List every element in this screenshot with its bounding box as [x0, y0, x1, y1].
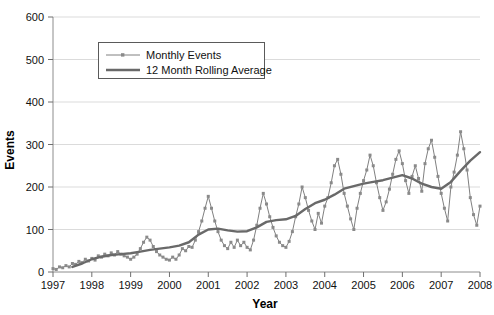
x-tick-label-2002: 2002: [235, 279, 259, 291]
y-tick-label-100: 100: [26, 224, 44, 236]
monthly-events-point: [84, 258, 87, 261]
monthly-events-point: [433, 156, 436, 159]
monthly-events-point: [394, 158, 397, 161]
monthly-events-point: [64, 264, 67, 267]
monthly-events-point: [197, 230, 200, 233]
monthly-events-point: [388, 188, 391, 191]
monthly-events-point: [174, 258, 177, 261]
monthly-events-point: [161, 256, 164, 259]
monthly-events-point: [469, 196, 472, 199]
monthly-events-point: [479, 205, 482, 208]
x-axis: 1997199819992000200120022003200420052006…: [41, 272, 492, 291]
monthly-events-point: [152, 245, 155, 248]
monthly-events-point: [126, 256, 129, 259]
monthly-events-point: [142, 241, 145, 244]
monthly-events-point: [378, 196, 381, 199]
monthly-events-point: [200, 220, 203, 223]
monthly-events-point: [414, 164, 417, 167]
x-tick-label-2007: 2007: [429, 279, 453, 291]
monthly-events-point: [304, 196, 307, 199]
legend-label-monthly-events: Monthly Events: [146, 49, 222, 61]
monthly-events-point: [187, 245, 190, 248]
monthly-events-point: [145, 236, 148, 239]
y-axis: 0100200300400500600: [26, 11, 53, 278]
monthly-events-point: [288, 240, 291, 243]
series-monthly-events: [52, 130, 482, 271]
monthly-events-point: [317, 212, 320, 215]
chart-legend: Monthly Events 12 Month Rolling Average: [99, 43, 272, 79]
y-tick-label-200: 200: [26, 181, 44, 193]
monthly-events-point: [333, 164, 336, 167]
monthly-events-point: [336, 158, 339, 161]
monthly-events-point: [362, 179, 365, 182]
monthly-events-point: [301, 186, 304, 189]
monthly-events-point: [220, 239, 223, 242]
monthly-events-point: [168, 259, 171, 262]
x-tick-label-2005: 2005: [351, 279, 375, 291]
y-tick-label-500: 500: [26, 54, 44, 66]
monthly-events-point: [436, 175, 439, 178]
series-rolling-average: [72, 152, 480, 267]
monthly-events-point: [229, 241, 232, 244]
monthly-events-point: [271, 226, 274, 229]
monthly-events-line: [53, 132, 480, 270]
y-axis-title: Events: [3, 130, 17, 170]
monthly-events-point: [216, 230, 219, 233]
monthly-events-point: [385, 200, 388, 203]
monthly-events-point: [191, 246, 194, 249]
monthly-events-point: [459, 130, 462, 133]
monthly-events-point: [246, 246, 249, 249]
monthly-events-point: [262, 192, 265, 195]
monthly-events-point: [223, 244, 226, 247]
monthly-events-point: [213, 220, 216, 223]
x-axis-title-text: Year: [252, 297, 278, 311]
monthly-events-point: [165, 258, 168, 261]
x-tick-label-2004: 2004: [312, 279, 336, 291]
monthly-events-point: [149, 239, 152, 242]
monthly-events-point: [330, 181, 333, 184]
monthly-events-point: [323, 205, 326, 208]
monthly-events-point: [178, 254, 181, 257]
monthly-events-point: [181, 247, 184, 250]
x-tick-label-2003: 2003: [274, 279, 298, 291]
monthly-events-point: [453, 171, 456, 174]
monthly-events-point: [349, 217, 352, 220]
y-axis-title-text: Events: [3, 130, 17, 170]
monthly-events-point: [278, 241, 281, 244]
monthly-events-point: [275, 234, 278, 237]
monthly-events-point: [259, 207, 262, 210]
monthly-events-point: [291, 230, 294, 233]
x-tick-label-2000: 2000: [157, 279, 181, 291]
monthly-events-point: [314, 228, 317, 231]
y-tick-label-0: 0: [38, 266, 44, 278]
monthly-events-point: [68, 265, 71, 268]
monthly-events-point: [446, 220, 449, 223]
monthly-events-point: [449, 186, 452, 189]
x-axis-title: Year: [252, 297, 278, 311]
monthly-events-point: [77, 260, 80, 263]
monthly-events-point: [352, 228, 355, 231]
monthly-events-point: [281, 244, 284, 247]
x-tick-label-2006: 2006: [390, 279, 414, 291]
monthly-events-point: [139, 247, 142, 250]
monthly-events-point: [443, 207, 446, 210]
monthly-events-point: [307, 209, 310, 212]
monthly-events-point: [55, 268, 58, 271]
monthly-events-point: [233, 246, 236, 249]
chart-container: 0100200300400500600 19971998199920002001…: [0, 0, 494, 315]
monthly-events-point: [407, 192, 410, 195]
monthly-events-point: [320, 222, 323, 225]
monthly-events-point: [268, 215, 271, 218]
monthly-events-point: [239, 244, 242, 247]
monthly-events-point: [420, 190, 423, 193]
monthly-events-point: [236, 239, 239, 242]
events-line-chart: 0100200300400500600 19971998199920002001…: [0, 0, 494, 315]
monthly-events-point: [52, 267, 55, 270]
monthly-events-point: [372, 164, 375, 167]
monthly-events-point: [210, 207, 213, 210]
monthly-events-point: [265, 203, 268, 206]
rolling-average-line: [72, 152, 480, 267]
monthly-events-point: [369, 154, 372, 157]
monthly-events-point: [462, 147, 465, 150]
y-tick-label-600: 600: [26, 11, 44, 23]
